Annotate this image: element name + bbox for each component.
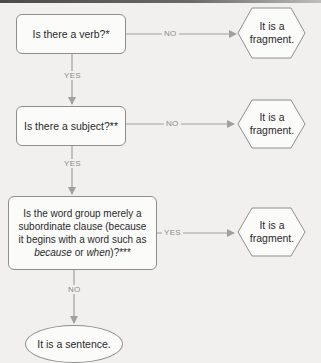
q3-end: )?*** [110,247,131,258]
q2-no-label: NO [164,119,181,128]
fragment-outcome-3: It is afragment. [240,208,304,256]
question-subject-box: Is there a subject?** [16,106,126,146]
question-subject-text: Is there a subject?** [24,120,118,133]
q3-line1: Is the word group merely a [23,208,141,219]
question-verb-text: Is there a verb?* [32,28,109,41]
sentence-outcome-ellipse: It is a sentence. [25,325,123,363]
fragment-outcome-1: It is afragment. [240,8,304,58]
q3-no-label: NO [66,285,83,294]
q1-no-label: NO [162,29,179,38]
q1-yes-label: YES [62,71,83,80]
q3-example-when: when [86,247,110,258]
question-verb-box: Is there a verb?* [16,14,126,54]
q3-line3: it begins with a word such as [19,234,147,245]
fragment-text-line2: fragment. [250,33,294,45]
fragment-text-line2: fragment. [250,124,294,136]
sentence-text: It is a sentence. [37,338,111,350]
fragment-text-line1: It is a [259,20,284,32]
q3-yes-label: YES [162,228,183,237]
q3-or: or [72,247,86,258]
question-subordinate-clause-box: Is the word group merely a subordinate c… [8,196,157,270]
fragment-text-line1: It is a [259,111,284,123]
q2-yes-label: YES [62,159,83,168]
fragment-text-line2: fragment. [250,232,294,244]
q3-line2: subordinate clause (because [19,221,147,232]
fragment-outcome-2: It is afragment. [240,100,304,148]
fragment-text-line1: It is a [259,219,284,231]
q3-example-because: because [34,247,72,258]
